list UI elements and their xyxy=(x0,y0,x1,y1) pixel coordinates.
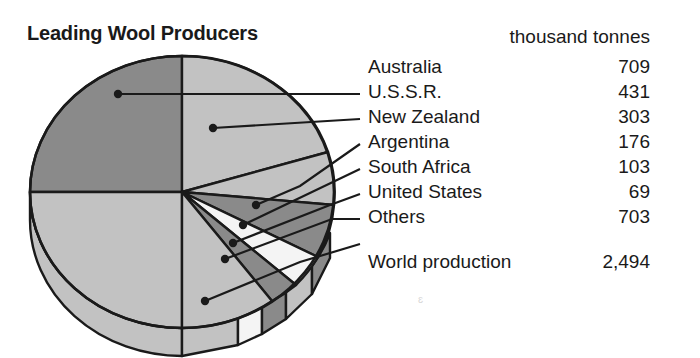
legend-value-others: 703 xyxy=(618,204,650,229)
legend-label-ussr: U.S.S.R. xyxy=(368,79,442,104)
leader-dot-new-zealand xyxy=(252,201,260,209)
legend-value-new-zealand: 303 xyxy=(618,104,650,129)
legend-row-south-africa: South Africa 103 xyxy=(368,154,678,179)
legend-label-others: Others xyxy=(368,204,425,229)
legend-row-argentina: Argentina 176 xyxy=(368,129,678,154)
legend-label-australia: Australia xyxy=(368,54,442,79)
wool-producers-pie-chart: Leading Wool Producers xyxy=(0,0,700,358)
legend-row-ussr: U.S.S.R. 431 xyxy=(368,79,678,104)
leader-dot-ussr xyxy=(209,124,217,132)
legend-label-south-africa: South Africa xyxy=(368,154,470,179)
legend-value-world-production: 2,494 xyxy=(602,249,650,274)
scan-artifact-mark: ɛ xyxy=(418,293,423,305)
leader-dot-australia xyxy=(114,90,122,98)
legend-label-united-states: United States xyxy=(368,179,482,204)
legend-value-argentina: 176 xyxy=(618,129,650,154)
legend-value-united-states: 69 xyxy=(629,179,650,204)
legend-label-world-production: World production xyxy=(368,249,511,274)
leader-dot-argentina xyxy=(239,221,247,229)
leader-dot-united-states xyxy=(221,255,229,263)
legend-label-new-zealand: New Zealand xyxy=(368,104,480,129)
legend-label-argentina: Argentina xyxy=(368,129,449,154)
legend-row-others: Others 703 xyxy=(368,204,678,229)
legend-value-australia: 709 xyxy=(618,54,650,79)
legend-value-south-africa: 103 xyxy=(618,154,650,179)
leader-dot-others xyxy=(201,297,209,305)
legend-row-world-production: World production 2,494 xyxy=(368,249,678,274)
legend-row-new-zealand: New Zealand 303 xyxy=(368,104,678,129)
legend-rows: Australia 709 U.S.S.R. 431 New Zealand 3… xyxy=(368,54,678,274)
legend-unit-header: thousand tonnes xyxy=(509,26,650,48)
leader-dot-south-africa xyxy=(229,239,237,247)
pie-slice-others xyxy=(30,192,182,328)
legend-row-australia: Australia 709 xyxy=(368,54,678,79)
legend-row-united-states: United States 69 xyxy=(368,179,678,204)
legend-value-ussr: 431 xyxy=(618,79,650,104)
pie-slice-australia xyxy=(30,56,182,192)
